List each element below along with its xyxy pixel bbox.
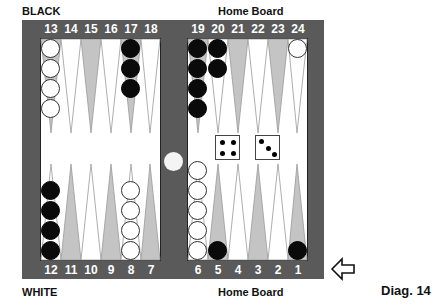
point-3: [248, 164, 268, 260]
point-number: 14: [61, 22, 81, 36]
die-pip: [231, 151, 236, 156]
die-pip: [272, 152, 277, 157]
white-checker[interactable]: [121, 181, 140, 200]
black-checker[interactable]: [208, 59, 227, 78]
point-number: 6: [188, 263, 208, 277]
point-number: 22: [248, 22, 268, 36]
black-checker[interactable]: [41, 221, 60, 240]
white-side-label: WHITE: [22, 286, 57, 298]
bar-white-checker[interactable]: [164, 152, 183, 171]
point-18: [141, 39, 160, 133]
left-arrow-icon: [330, 257, 356, 281]
white-checker[interactable]: [188, 161, 207, 180]
die-pip: [231, 140, 236, 145]
die-three: [255, 135, 280, 160]
point-number: 11: [61, 263, 81, 277]
point-number: 20: [208, 22, 228, 36]
point-number: 18: [141, 22, 161, 36]
point-number: 21: [228, 22, 248, 36]
white-checker[interactable]: [188, 181, 207, 200]
white-checker[interactable]: [41, 59, 60, 78]
point-number: 10: [81, 263, 101, 277]
black-checker[interactable]: [208, 241, 227, 260]
black-checker[interactable]: [188, 79, 207, 98]
point-22: [248, 39, 268, 133]
point-2: [268, 164, 288, 260]
black-checker[interactable]: [41, 201, 60, 220]
black-checker[interactable]: [188, 59, 207, 78]
point-11: [61, 164, 81, 260]
black-checker[interactable]: [121, 79, 140, 98]
point-21: [228, 39, 248, 133]
point-14: [61, 39, 81, 133]
point-number: 3: [248, 263, 268, 277]
point-number: 8: [121, 263, 141, 277]
point-number: 5: [208, 263, 228, 277]
white-checker[interactable]: [41, 99, 60, 118]
white-checker[interactable]: [121, 241, 140, 260]
white-checker[interactable]: [41, 39, 60, 58]
point-23: [268, 39, 288, 133]
die-pip: [259, 139, 264, 144]
bottom-home-board-label: Home Board: [218, 286, 283, 298]
point-number: 9: [101, 263, 121, 277]
white-checker[interactable]: [288, 39, 307, 58]
point-10: [81, 164, 101, 260]
point-number: 16: [101, 22, 121, 36]
white-checker[interactable]: [188, 201, 207, 220]
point-number: 12: [41, 263, 61, 277]
point-number: 1: [288, 263, 308, 277]
point-number: 24: [288, 22, 308, 36]
white-checker[interactable]: [188, 241, 207, 260]
point-number: 19: [188, 22, 208, 36]
die-four: [215, 135, 240, 160]
point-number: 17: [121, 22, 141, 36]
point-number: 4: [228, 263, 248, 277]
black-checker[interactable]: [188, 39, 207, 58]
point-9: [101, 164, 121, 260]
die-pip: [266, 146, 271, 151]
point-number: 7: [141, 263, 161, 277]
die-pip: [220, 140, 225, 145]
point-number: 23: [268, 22, 288, 36]
point-number: 2: [268, 263, 288, 277]
black-checker[interactable]: [41, 181, 60, 200]
point-7: [141, 164, 160, 260]
die-pip: [220, 151, 225, 156]
black-checker[interactable]: [288, 241, 307, 260]
black-checker[interactable]: [121, 39, 140, 58]
point-16: [101, 39, 121, 133]
black-checker[interactable]: [188, 99, 207, 118]
black-checker[interactable]: [121, 59, 140, 78]
point-number: 13: [41, 22, 61, 36]
white-checker[interactable]: [41, 79, 60, 98]
point-15: [81, 39, 101, 133]
white-checker[interactable]: [121, 201, 140, 220]
black-checker[interactable]: [41, 241, 60, 260]
black-checker[interactable]: [208, 39, 227, 58]
point-4: [228, 164, 248, 260]
diagram-caption: Diag. 14: [381, 283, 431, 298]
white-checker[interactable]: [121, 221, 140, 240]
point-number: 15: [81, 22, 101, 36]
white-checker[interactable]: [188, 221, 207, 240]
